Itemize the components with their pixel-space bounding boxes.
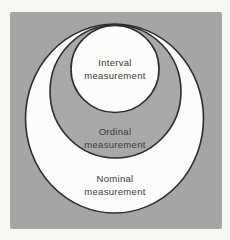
ordinal-label-line2: measurement (84, 138, 145, 151)
interval-label-line1: Interval (84, 57, 145, 70)
nominal-label-line2: measurement (84, 185, 145, 198)
ordinal-label: Ordinal measurement (84, 126, 145, 151)
nested-circles-diagram (0, 0, 230, 240)
ordinal-label-line1: Ordinal (84, 126, 145, 139)
interval-label: Interval measurement (84, 57, 145, 82)
interval-label-line2: measurement (84, 69, 145, 82)
measurement-levels-figure: Interval measurement Ordinal measurement… (0, 0, 230, 240)
nominal-label-line1: Nominal (84, 173, 145, 186)
nominal-label: Nominal measurement (84, 173, 145, 198)
